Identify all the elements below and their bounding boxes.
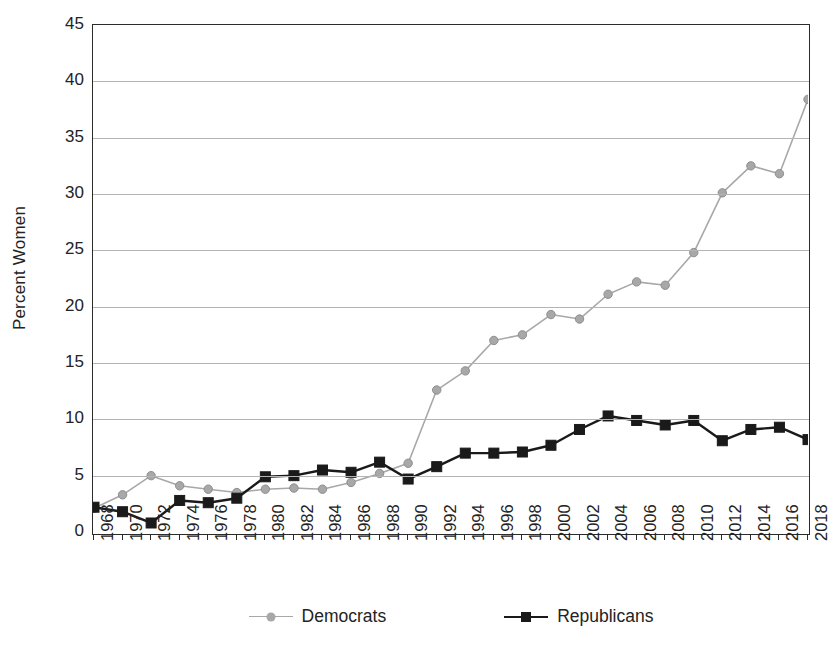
legend-label: Republicans <box>557 606 653 627</box>
legend-item-republicans[interactable]: Republicans <box>504 606 653 627</box>
x-tick-label: 1992 <box>427 541 445 599</box>
x-axis-tick-mark <box>636 535 637 540</box>
x-tick-label-text: 2010 <box>698 504 717 541</box>
x-tick-label-text: 1998 <box>526 504 545 541</box>
chart-legend: DemocratsRepublicans <box>92 606 810 627</box>
x-tick-label: 2006 <box>627 541 645 599</box>
x-tick-label-text: 1976 <box>212 504 231 541</box>
y-tick-label: 0 <box>40 521 84 541</box>
data-point-square <box>317 465 327 475</box>
data-point-square <box>632 415 642 425</box>
data-point-circle <box>261 485 269 493</box>
x-axis-tick-mark <box>721 535 722 540</box>
x-tick-label: 2014 <box>741 541 759 599</box>
series-layer <box>93 25 808 533</box>
x-axis-tick-mark <box>750 535 751 540</box>
gridline <box>93 138 809 139</box>
data-point-circle <box>175 482 183 490</box>
x-tick-label: 1968 <box>84 541 102 599</box>
x-tick-label-text: 1988 <box>384 504 403 541</box>
x-tick-label: 2016 <box>769 541 787 599</box>
x-tick-label: 2010 <box>684 541 702 599</box>
x-tick-label: 1976 <box>198 541 216 599</box>
y-tick-label: 10 <box>40 408 84 428</box>
data-point-square <box>546 440 556 450</box>
x-tick-label: 1972 <box>141 541 159 599</box>
x-axis-tick-mark <box>379 535 380 540</box>
data-point-circle <box>461 367 469 375</box>
data-point-circle <box>404 459 412 467</box>
x-tick-label-text: 2000 <box>555 504 574 541</box>
x-tick-label-text: 1994 <box>469 504 488 541</box>
y-tick-label: 45 <box>40 14 84 34</box>
y-axis-title-text: Percent Women <box>10 205 30 329</box>
x-tick-label-text: 2006 <box>641 504 660 541</box>
x-tick-label-text: 1974 <box>184 504 203 541</box>
data-point-circle <box>347 478 355 486</box>
x-tick-label: 2004 <box>598 541 616 599</box>
gridline <box>93 363 809 364</box>
x-axis-tick-mark <box>264 535 265 540</box>
data-point-square <box>517 447 527 457</box>
y-tick-label: 25 <box>40 239 84 259</box>
y-tick-label: 35 <box>40 127 84 147</box>
x-tick-label-text: 1970 <box>127 504 146 541</box>
x-axis-tick-mark <box>122 535 123 540</box>
y-tick-label: 30 <box>40 183 84 203</box>
x-tick-label: 2018 <box>798 541 816 599</box>
legend-swatch-democrats <box>249 610 293 624</box>
x-tick-label-text: 2004 <box>612 504 631 541</box>
legend-item-democrats[interactable]: Democrats <box>249 606 387 627</box>
data-point-square <box>746 424 756 434</box>
legend-marker-circle <box>266 612 275 621</box>
x-tick-label: 1978 <box>227 541 245 599</box>
data-point-square <box>489 448 499 458</box>
x-axis-tick-mark <box>350 535 351 540</box>
gridline <box>93 476 809 477</box>
y-tick-label: 40 <box>40 70 84 90</box>
x-tick-label: 2000 <box>541 541 559 599</box>
data-point-circle <box>575 315 583 323</box>
x-tick-label: 1984 <box>312 541 330 599</box>
data-point-circle <box>433 386 441 394</box>
x-tick-label: 1990 <box>398 541 416 599</box>
x-tick-label-text: 1984 <box>326 504 345 541</box>
series-line <box>94 99 808 508</box>
data-point-circle <box>718 189 726 197</box>
x-axis-tick-mark <box>321 535 322 540</box>
data-point-square <box>432 462 442 472</box>
y-axis-title: Percent Women <box>0 0 40 535</box>
data-point-circle <box>290 484 298 492</box>
x-axis-tick-mark <box>778 535 779 540</box>
gridline <box>93 307 809 308</box>
x-tick-label-text: 1986 <box>355 504 374 541</box>
x-axis-tick-mark <box>436 535 437 540</box>
x-tick-label: 1988 <box>370 541 388 599</box>
data-point-circle <box>490 336 498 344</box>
x-axis-tick-mark <box>693 535 694 540</box>
data-point-circle <box>775 170 783 178</box>
x-tick-label: 2002 <box>570 541 588 599</box>
data-point-circle <box>518 331 526 339</box>
x-tick-label: 1982 <box>284 541 302 599</box>
data-point-circle <box>318 485 326 493</box>
x-tick-label: 1980 <box>255 541 273 599</box>
x-axis-tick-mark <box>207 535 208 540</box>
gridline <box>93 81 809 82</box>
x-axis-tick-mark <box>293 535 294 540</box>
gridline <box>93 419 809 420</box>
y-tick-label: 20 <box>40 296 84 316</box>
x-axis-tick-mark <box>179 535 180 540</box>
x-axis-tick-mark <box>664 535 665 540</box>
data-point-circle <box>661 281 669 289</box>
data-point-circle <box>204 485 212 493</box>
x-axis-tick-mark <box>550 535 551 540</box>
data-point-square <box>460 448 470 458</box>
legend-swatch-republicans <box>504 610 548 624</box>
x-axis-tick-mark <box>464 535 465 540</box>
x-tick-label-text: 1996 <box>498 504 517 541</box>
x-tick-label: 1994 <box>455 541 473 599</box>
x-axis-tick-mark <box>93 535 94 540</box>
data-point-circle <box>604 290 612 298</box>
x-axis-tick-mark <box>807 535 808 540</box>
